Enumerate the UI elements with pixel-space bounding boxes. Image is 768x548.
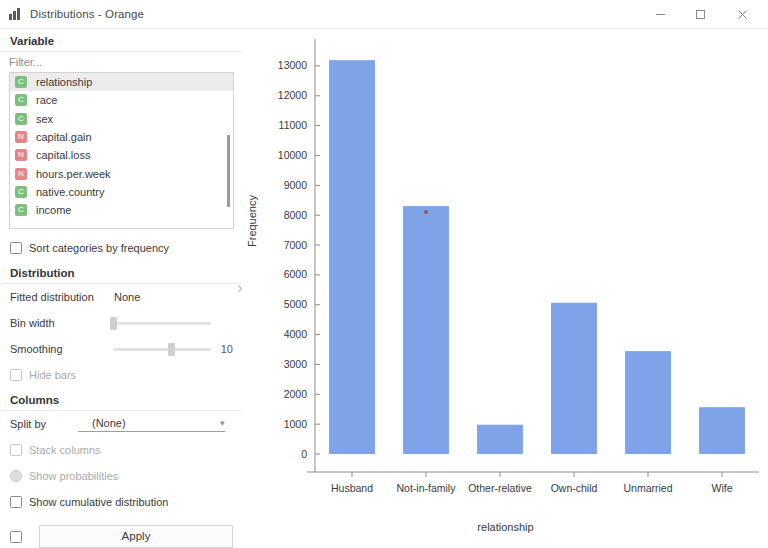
y-axis-tick-label: 12000 (278, 89, 307, 101)
smoothing-row[interactable]: Smoothing 10 (0, 336, 243, 362)
variable-list-item-label: income (36, 204, 71, 216)
checkbox-icon (10, 496, 22, 508)
distribution-plot: Frequency 010002000300040005000600070008… (243, 29, 768, 507)
variable-list-item-label: capital.loss (36, 149, 90, 161)
fitted-distribution-row[interactable]: Fitted distribution None (0, 284, 243, 310)
x-axis-tick-label: Not-in-family (397, 482, 457, 494)
y-axis-tick-label: 7000 (284, 239, 308, 251)
close-button[interactable] (722, 0, 762, 28)
variable-list-item-native.country[interactable]: Cnative.country (10, 183, 233, 201)
control-panel: Variable Filter... CrelationshipCraceCse… (0, 29, 243, 507)
split-by-row[interactable]: Split by (None) ▾ (0, 411, 243, 437)
variable-list-item-race[interactable]: Crace (10, 91, 233, 109)
maximize-button[interactable] (680, 0, 720, 28)
checkbox-icon (10, 242, 22, 254)
checkbox-icon (10, 369, 22, 381)
x-axis-tick-label: Wife (712, 482, 733, 494)
bin-width-slider[interactable] (114, 322, 211, 325)
show-cumulative-label: Show cumulative distribution (29, 496, 168, 508)
y-axis-tick-label: 11000 (279, 119, 308, 131)
close-icon (737, 9, 748, 20)
maximize-icon (695, 9, 706, 20)
variable-list-item-label: capital.gain (36, 131, 92, 143)
show-cumulative-checkbox[interactable]: Show cumulative distribution (0, 489, 243, 515)
title-bar: Distributions - Orange (0, 0, 768, 29)
bin-width-label: Bin width (10, 317, 114, 329)
bar-Wife[interactable] (699, 407, 745, 454)
categorical-variable-icon: C (15, 94, 27, 106)
checkbox-icon (10, 444, 22, 456)
show-probabilities-checkbox[interactable]: Show probabilities (0, 463, 243, 489)
apply-button[interactable]: Apply (39, 525, 233, 548)
numeric-variable-icon: N (15, 131, 27, 143)
variable-list-item-label: race (36, 94, 57, 106)
variable-list-item-sex[interactable]: Csex (10, 110, 233, 128)
bar-Other-relative[interactable] (477, 425, 523, 454)
y-axis-tick-label: 1000 (284, 418, 308, 430)
apply-row: Apply (0, 523, 243, 548)
x-axis-tick-label: Husband (331, 482, 373, 494)
bar-Unmarried[interactable] (625, 351, 671, 454)
variable-list-scrollbar[interactable] (227, 135, 230, 207)
variable-list-item-label: native.country (36, 186, 104, 198)
x-axis-tick-label: Other-relative (468, 482, 532, 494)
numeric-variable-icon: N (15, 168, 27, 180)
checkbox-icon (10, 470, 22, 482)
y-axis-tick-label: 8000 (284, 209, 308, 221)
y-axis-tick-label: 0 (301, 448, 307, 460)
stack-columns-checkbox[interactable]: Stack columns (0, 437, 243, 463)
slider-knob[interactable] (168, 343, 175, 356)
hide-bars-label: Hide bars (29, 369, 76, 381)
variable-list-item-relationship[interactable]: Crelationship (10, 73, 233, 91)
show-probabilities-label: Show probabilities (29, 470, 118, 482)
split-by-value: (None) (78, 417, 220, 429)
plot-svg: 0100020003000400050006000700080009000100… (243, 29, 768, 507)
variable-list-item-label: sex (36, 113, 53, 125)
variable-list-item-capital.loss[interactable]: Ncapital.loss (10, 146, 233, 164)
hide-bars-checkbox[interactable]: Hide bars (0, 362, 243, 388)
categorical-variable-icon: C (15, 186, 27, 198)
smoothing-value: 10 (217, 343, 233, 355)
collapse-panel-chevron-icon[interactable]: › (237, 279, 243, 296)
variable-section-title: Variable (0, 29, 243, 51)
bin-width-row[interactable]: Bin width (0, 310, 243, 336)
fitted-distribution-value: None (114, 291, 140, 303)
variable-list-item-label: relationship (36, 76, 92, 88)
x-axis-label: relationship (243, 521, 768, 533)
y-axis-tick-label: 6000 (284, 268, 308, 280)
auto-apply-checkbox[interactable] (10, 531, 22, 543)
variable-list-item-capital.gain[interactable]: Ncapital.gain (10, 128, 233, 146)
window-title: Distributions - Orange (30, 8, 144, 20)
variable-list-item-label: hours.per.week (36, 168, 111, 180)
y-axis-tick-label: 3000 (284, 358, 308, 370)
variable-list-item-hours.per.week[interactable]: Nhours.per.week (10, 164, 233, 182)
minimize-button[interactable] (640, 0, 680, 28)
y-axis-tick-label: 4000 (284, 328, 308, 340)
chevron-down-icon: ▾ (220, 418, 225, 428)
columns-section-title: Columns (0, 388, 243, 410)
numeric-variable-icon: N (15, 149, 27, 161)
y-axis-tick-label: 9000 (284, 179, 308, 191)
y-axis-tick-label: 2000 (284, 388, 308, 400)
y-axis-tick-label: 5000 (284, 298, 308, 310)
categorical-variable-icon: C (15, 113, 27, 125)
bar-Husband[interactable] (329, 60, 375, 454)
variable-list[interactable]: CrelationshipCraceCsexNcapital.gainNcapi… (9, 72, 234, 229)
smoothing-slider[interactable] (114, 348, 211, 351)
slider-knob[interactable] (110, 317, 117, 330)
filter-input[interactable]: Filter... (0, 52, 243, 72)
bar-Not-in-family[interactable] (403, 206, 449, 454)
bar-Own-child[interactable] (551, 303, 597, 454)
stack-columns-label: Stack columns (29, 444, 101, 456)
y-axis-tick-label: 13000 (278, 59, 307, 71)
x-axis-tick-label: Unmarried (623, 482, 672, 494)
fitted-distribution-label: Fitted distribution (10, 291, 114, 303)
variable-list-item-income[interactable]: Cincome (10, 201, 233, 219)
minimize-icon (655, 9, 666, 20)
split-by-dropdown[interactable]: (None) ▾ (78, 417, 225, 432)
sort-categories-checkbox[interactable]: Sort categories by frequency (0, 235, 243, 261)
categorical-variable-icon: C (15, 76, 27, 88)
sort-categories-label: Sort categories by frequency (29, 242, 169, 254)
y-axis-tick-label: 10000 (278, 149, 307, 161)
cursor-marker (424, 210, 428, 214)
